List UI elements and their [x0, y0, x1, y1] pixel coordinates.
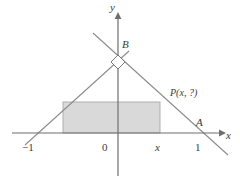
tick-label-minus-one: −1	[22, 142, 34, 153]
right-side-line	[93, 33, 228, 155]
y-axis-label: y	[110, 2, 115, 13]
x-axis-label: x	[226, 130, 231, 141]
point-label-b: B	[122, 39, 129, 50]
tick-label-x: x	[155, 142, 160, 153]
geometry-figure: y x B A P(x, ?) −1 0 x 1	[0, 0, 240, 181]
point-label-a: A	[196, 117, 203, 128]
x-axis-arrowhead	[219, 130, 226, 137]
figure-canvas	[0, 0, 240, 181]
tick-label-zero: 0	[102, 142, 108, 153]
inscribed-rectangle	[63, 102, 160, 133]
point-label-p: P(x, ?)	[170, 88, 197, 98]
tick-label-one: 1	[195, 142, 201, 153]
y-axis-arrowhead	[115, 12, 122, 19]
